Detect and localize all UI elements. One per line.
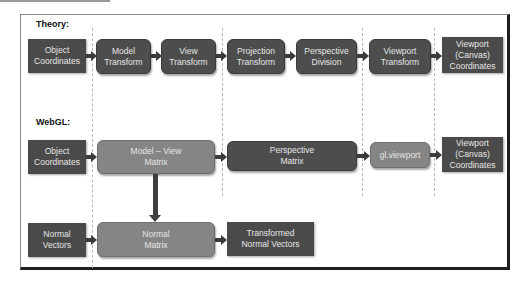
arrow-icon (285, 54, 291, 58)
arrow-icon (151, 54, 157, 58)
theory-label: Theory: (36, 19, 69, 29)
theory-projection-transform: Projection Transform (227, 39, 285, 74)
arrow-icon (86, 155, 92, 159)
arrow-icon (86, 238, 92, 242)
webgl-model-view-matrix: Model – View Matrix (97, 140, 215, 174)
normal-vectors: Normal Vectors (28, 223, 86, 257)
separator-1 (92, 28, 93, 268)
theory-viewport-transform: Viewport Transform (369, 39, 431, 74)
theory-perspective-division: Perspective Division (296, 39, 357, 74)
top-divider (0, 0, 110, 2)
theory-object-coordinates: Object Coordinates (28, 39, 86, 73)
webgl-perspective-matrix: Perspective Matrix (227, 141, 357, 171)
arrow-icon (215, 238, 222, 242)
arrow-icon (431, 54, 437, 58)
arrow-icon (357, 154, 365, 158)
arrow-icon (216, 54, 222, 58)
transformed-normal-vectors: Transformed Normal Vectors (227, 222, 314, 256)
down-arrow-icon (153, 174, 158, 216)
theory-model-transform: Model Transform (96, 39, 151, 74)
arrow-icon (215, 155, 222, 159)
arrow-icon (86, 54, 92, 58)
arrow-icon (357, 54, 364, 58)
arrow-icon (430, 153, 437, 157)
normal-matrix: Normal Matrix (97, 222, 215, 257)
theory-view-transform: View Transform (161, 39, 216, 74)
webgl-object-coordinates: Object Coordinates (28, 140, 86, 174)
webgl-gl-viewport: gl.viewport (370, 142, 430, 168)
theory-viewport-canvas-coordinates: Viewport (Canvas) Coordinates (442, 37, 503, 73)
webgl-label: WebGL: (36, 117, 70, 127)
webgl-viewport-canvas-coordinates: Viewport (Canvas) Coordinates (442, 137, 503, 172)
